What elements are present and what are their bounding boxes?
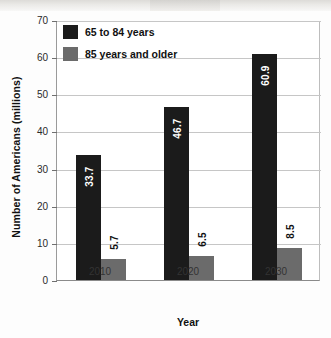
x-axis-tick-label: 2010 bbox=[60, 266, 140, 277]
y-axis-tick-label: 30 bbox=[4, 164, 48, 175]
plot-area: 33.75.746.76.560.98.5 65 to 84 years 85 … bbox=[56, 21, 320, 281]
bar-value-label: 46.7 bbox=[171, 116, 182, 140]
x-axis-tick-label: 2020 bbox=[148, 266, 228, 277]
y-axis-tick bbox=[52, 132, 57, 133]
legend-swatch-icon bbox=[63, 25, 78, 39]
legend-item: 65 to 84 years bbox=[63, 23, 177, 41]
legend-swatch-icon bbox=[63, 47, 78, 61]
y-axis-tick-label: 20 bbox=[4, 201, 48, 212]
y-axis-tick bbox=[52, 207, 57, 208]
y-axis-tick bbox=[52, 21, 57, 22]
x-axis-title: Year bbox=[56, 316, 320, 328]
x-axis-tick-label: 2030 bbox=[236, 266, 316, 277]
bar-value-label: 60.9 bbox=[259, 63, 270, 87]
bar-value-label: 8.5 bbox=[284, 220, 295, 244]
y-axis-title: Number of Americans (millions) bbox=[10, 57, 22, 257]
legend-item: 85 years and older bbox=[63, 45, 177, 63]
y-axis-tick-label: 10 bbox=[4, 238, 48, 249]
y-axis-tick bbox=[52, 281, 57, 282]
y-axis-tick bbox=[52, 170, 57, 171]
bar-value-label: 5.7 bbox=[108, 230, 119, 254]
bar-value-label: 6.5 bbox=[196, 227, 207, 251]
legend-item-label: 85 years and older bbox=[85, 48, 177, 60]
y-axis-tick bbox=[52, 244, 57, 245]
y-axis-tick bbox=[52, 95, 57, 96]
bar: 46.7 bbox=[164, 107, 189, 280]
scan-artifact-band bbox=[0, 0, 331, 11]
legend-item-label: 65 to 84 years bbox=[85, 26, 154, 38]
y-axis-tick-label: 60 bbox=[4, 52, 48, 63]
y-axis-tick-label: 70 bbox=[4, 15, 48, 26]
y-axis-tick-label: 50 bbox=[4, 89, 48, 100]
y-axis-tick-label: 40 bbox=[4, 126, 48, 137]
bar-value-label: 33.7 bbox=[83, 164, 94, 188]
y-axis-tick-label: 0 bbox=[4, 275, 48, 286]
bar: 33.7 bbox=[76, 155, 101, 280]
y-axis-tick bbox=[52, 58, 57, 59]
bar: 60.9 bbox=[252, 54, 277, 280]
legend: 65 to 84 years 85 years and older bbox=[63, 23, 177, 67]
bar-chart-figure: Number of Americans (millions) 010203040… bbox=[0, 0, 331, 338]
bar-group: 60.98.5 bbox=[252, 20, 302, 280]
